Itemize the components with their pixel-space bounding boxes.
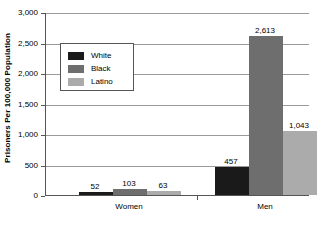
bar-latino-men (283, 131, 317, 195)
y-axis-tick-label: 1,500 (2, 100, 38, 109)
legend-swatch-latino-icon (68, 78, 84, 86)
x-axis-label-women: Women (89, 202, 169, 211)
bar-black-men (249, 36, 283, 195)
y-axis-tick-label: 3,000 (2, 8, 38, 17)
legend-item-white: White (68, 49, 133, 62)
legend-label-black: Black (91, 64, 111, 73)
gridline (46, 13, 309, 14)
x-axis-label-men: Men (225, 202, 305, 211)
x-axis-group-separator-tick (197, 196, 198, 200)
legend-item-latino: Latino (68, 75, 133, 88)
bar-white-women (79, 192, 113, 195)
y-axis-tick-label: 2,000 (2, 69, 38, 78)
gridline (46, 195, 309, 196)
bar-white-men (215, 167, 249, 195)
bar-value-label: 63 (138, 181, 188, 190)
legend-label-white: White (91, 51, 111, 60)
y-axis-tick-mark (41, 196, 45, 197)
y-axis-tick-label: 500 (2, 161, 38, 170)
legend-item-black: Black (68, 62, 133, 75)
y-axis-tick-label: 2,500 (2, 39, 38, 48)
bar-value-label: 457 (206, 157, 256, 166)
bar-chart: Prisoners Per 100,000 Population 05001,0… (0, 0, 320, 225)
legend-swatch-black-icon (68, 65, 84, 73)
bar-value-label: 2,613 (240, 26, 290, 35)
plot-area (45, 13, 308, 196)
y-axis-tick-label: 1,000 (2, 130, 38, 139)
bar-latino-women (147, 191, 181, 195)
bar-value-label: 1,043 (274, 121, 320, 130)
legend-swatch-white-icon (68, 52, 84, 60)
legend-label-latino: Latino (91, 77, 113, 86)
legend: White Black Latino (60, 43, 134, 91)
y-axis-tick-label: 0 (2, 191, 38, 200)
